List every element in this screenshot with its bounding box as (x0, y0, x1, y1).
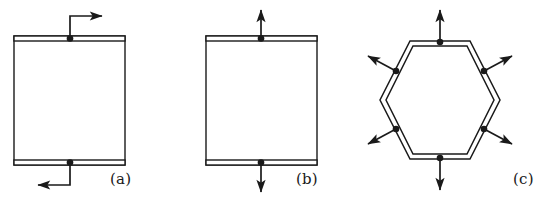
panel-a-bottom-arrow (38, 163, 70, 186)
panel-c-lower-left-node-dot (393, 126, 400, 133)
panel-c-lower-right-arrow (485, 130, 512, 145)
panel-a-top-node-dot (67, 35, 74, 42)
panel-b-label: (b) (296, 170, 318, 188)
panel-c-lower-right-node-dot (481, 126, 488, 133)
panel-c-top-node-dot (437, 39, 444, 46)
panel-b-top-node-dot (258, 35, 265, 42)
panel-b-diagram (206, 10, 317, 192)
panel-a-diagram (14, 16, 125, 185)
panel-a-cell-outline (14, 36, 125, 165)
panel-c-upper-right-node-dot (481, 68, 488, 75)
panel-b-bottom-node-dot (258, 159, 265, 166)
panel-a-cell-body (14, 36, 125, 165)
panel-c-lower-left-arrow (368, 130, 395, 145)
panel-c-bottom-node-dot (437, 155, 444, 162)
panel-b-cell-body (206, 36, 317, 165)
figure-vector-graphic (0, 0, 557, 201)
panel-a-label: (a) (110, 170, 131, 188)
panel-c-upper-left-node-dot (393, 68, 400, 75)
panel-c-upper-left-arrow (368, 56, 395, 71)
panel-a-top-arrow (70, 16, 102, 38)
panel-c-upper-right-arrow (485, 56, 512, 71)
panel-b-cell-outline (206, 36, 317, 165)
figure-canvas: (a) (b) (c) (0, 0, 557, 201)
panel-a-bottom-node-dot (67, 159, 74, 166)
panel-c-diagram (368, 10, 512, 190)
panel-c-label: (c) (513, 170, 534, 188)
